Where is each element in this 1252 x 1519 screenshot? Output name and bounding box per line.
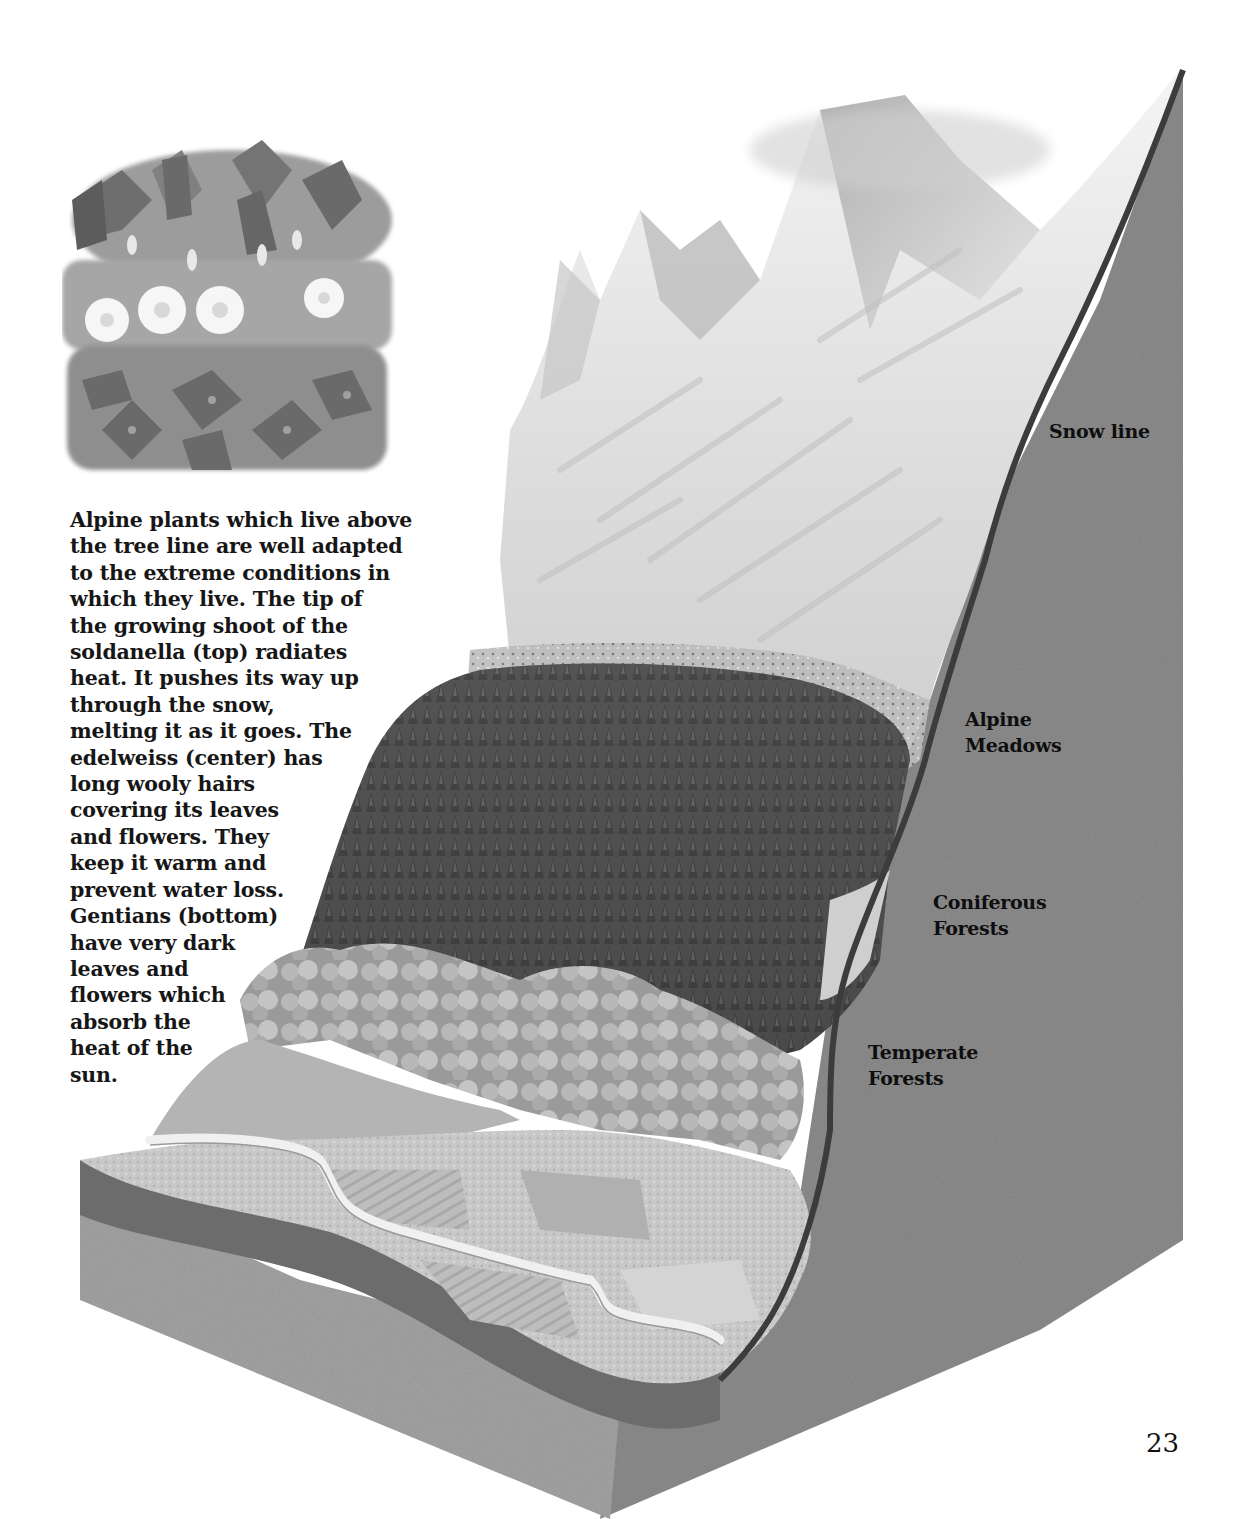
label-snow-line: Snow line — [1049, 418, 1150, 444]
caption-line: soldanella (top) radiates — [70, 639, 450, 665]
caption-line: the growing shoot of the — [70, 613, 450, 639]
caption-line: prevent water loss. — [70, 877, 450, 903]
label-alpine-meadows: Alpine Meadows — [965, 706, 1061, 758]
caption-line: Gentians (bottom) — [70, 903, 450, 929]
label-text: Meadows — [965, 732, 1061, 758]
label-text: Forests — [868, 1065, 978, 1091]
caption-line: leaves and — [70, 956, 450, 982]
label-coniferous-forests: Coniferous Forests — [933, 889, 1046, 941]
caption-paragraph: Alpine plants which live above the tree … — [70, 507, 450, 1088]
page-number: 23 — [1146, 1428, 1179, 1458]
caption-line: flowers which — [70, 982, 450, 1008]
caption-line: heat of the — [70, 1035, 450, 1061]
label-text: Temperate — [868, 1039, 978, 1065]
label-temperate-forests: Temperate Forests — [868, 1039, 978, 1091]
caption-line: which they live. The tip of — [70, 586, 450, 612]
caption-line: long wooly hairs — [70, 771, 450, 797]
caption-line: have very dark — [70, 930, 450, 956]
caption-line: the tree line are well adapted — [70, 533, 450, 559]
alpine-plants-inset-illustration — [62, 130, 402, 480]
caption-line: Alpine plants which live above — [70, 507, 450, 533]
label-text: Forests — [933, 915, 1046, 941]
gentian-leaves — [67, 345, 387, 470]
caption-line: through the snow, — [70, 692, 450, 718]
caption-line: heat. It pushes its way up — [70, 665, 450, 691]
caption-line: covering its leaves — [70, 797, 450, 823]
caption-line: melting it as it goes. The — [70, 718, 450, 744]
caption-line: and flowers. They — [70, 824, 450, 850]
label-text: Snow line — [1049, 418, 1150, 444]
label-text: Coniferous — [933, 889, 1046, 915]
caption-line: edelweiss (center) has — [70, 745, 450, 771]
label-text: Alpine — [965, 706, 1061, 732]
caption-line: absorb the — [70, 1009, 450, 1035]
caption-line: to the extreme conditions in — [70, 560, 450, 586]
caption-line: sun. — [70, 1062, 450, 1088]
caption-line: keep it warm and — [70, 850, 450, 876]
